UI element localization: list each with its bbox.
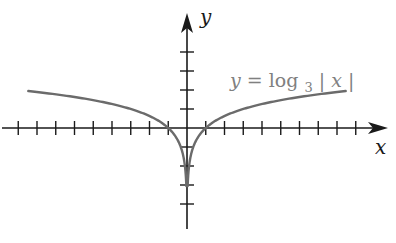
equation-abs-open: | — [319, 69, 325, 92]
curve-left-branch — [28, 91, 186, 186]
x-axis-label: x — [375, 135, 386, 159]
equation-x: x — [331, 69, 342, 91]
log-abs-graph: y x y = log 3 | x | — [0, 0, 396, 243]
equation-abs-close: | — [348, 69, 354, 92]
y-axis-label: y — [199, 5, 212, 29]
equation-y: y — [229, 69, 241, 91]
equation-eq: = log — [247, 69, 299, 91]
curve-right-branch — [188, 91, 346, 186]
equation-subscript: 3 — [304, 80, 312, 95]
